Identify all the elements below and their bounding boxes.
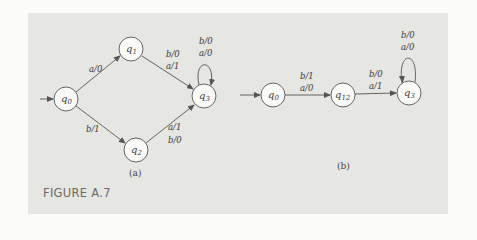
caption-a: (a)	[129, 168, 141, 178]
loop-arrowhead	[402, 77, 403, 82]
label-b-q3-loop-2: a/0	[401, 42, 415, 52]
edge-b-q3-self-loop	[401, 58, 415, 83]
label-q0-q2: b/1	[86, 124, 100, 134]
label-q3-loop-2: a/0	[199, 48, 213, 58]
label-q2-q3-1: a/1	[168, 122, 181, 132]
label-b-q12-q3-2: a/1	[369, 81, 382, 91]
edge-q0-q2	[76, 106, 125, 143]
state-b-q3: q3	[397, 81, 421, 105]
diagram-b: q0 q12 q3 b/1 a/0 b/0 a/1 b/0 a/0 (b)	[240, 30, 421, 171]
edge-q0-q1	[76, 56, 120, 92]
label-q1-q3-1: b/0	[166, 49, 180, 59]
diagram-a: q0 q1 q2 q3 a/0 b/1 b/0 a/1 a/1 b/0 b/0 …	[40, 36, 216, 178]
label-b-q0-q12-2: a/0	[300, 83, 314, 93]
caption-b: (b)	[337, 161, 350, 171]
label-q1-q3-2: a/1	[166, 61, 179, 71]
edge-b-q12-q3	[355, 93, 396, 94]
label-b-q0-q12-1: b/1	[300, 71, 314, 81]
state-q2: q2	[124, 138, 148, 162]
state-q0: q0	[54, 87, 78, 111]
state-b-q0: q0	[261, 83, 285, 107]
label-b-q12-q3-1: b/0	[369, 69, 383, 79]
label-q2-q3-2: b/0	[168, 135, 182, 145]
label-b-q3-loop-1: b/0	[401, 30, 415, 40]
label-q3-loop-1: b/0	[199, 36, 213, 46]
state-q3: q3	[192, 84, 216, 108]
label-q0-q1: a/0	[89, 64, 103, 74]
figure-title: FIGURE A.7	[43, 186, 111, 200]
state-q1: q1	[119, 37, 143, 61]
edge-q3-self-loop	[198, 65, 212, 85]
state-b-q12: q12	[331, 83, 355, 107]
